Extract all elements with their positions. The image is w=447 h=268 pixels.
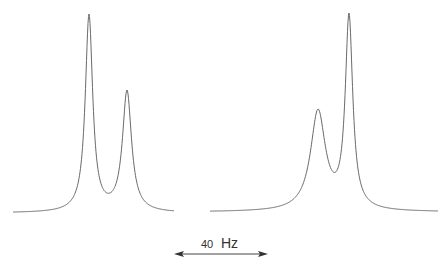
scale-bar-number: 40 [201,238,213,250]
scale-bar-unit: Hz [221,235,238,251]
scale-bar: 40 Hz [174,235,268,257]
right-spectrum-trace [210,13,438,211]
left-spectrum-trace [13,14,174,212]
spectra-chart: 40 Hz [0,0,447,268]
